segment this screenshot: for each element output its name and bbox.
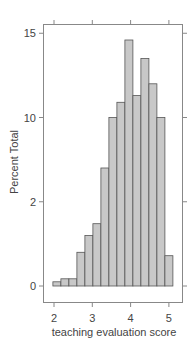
y-tick-label: 2 [30,196,36,208]
histogram-bar [133,96,141,286]
x-axis-title: teaching evaluation score [52,326,177,338]
histogram-bar [77,252,85,286]
histogram-bar [101,168,109,286]
x-tick-label: 5 [166,312,172,324]
histogram-bar [141,59,149,287]
histogram-bar [125,40,133,286]
histogram-bar [117,102,125,286]
histogram-bar [149,84,157,286]
y-tick-label: 15 [24,27,36,39]
histogram-bar [157,118,165,287]
histogram-bar [109,118,117,287]
histogram-bar [69,279,77,286]
y-tick-label: 0 [30,280,36,292]
x-tick-label: 4 [128,312,134,324]
y-axis-title: Percent Total [8,130,20,194]
histogram-bar [85,235,93,286]
histogram-bar [165,256,173,286]
y-tick-label: 10 [24,112,36,124]
x-tick-label: 2 [51,312,57,324]
histogram-chart: 021015 2345 Percent Total teaching evalu… [0,0,194,357]
histogram-bars [53,40,173,286]
histogram-bar [93,224,101,286]
x-tick-label: 3 [89,312,95,324]
histogram-bar [61,279,69,286]
histogram-bar [53,282,61,286]
